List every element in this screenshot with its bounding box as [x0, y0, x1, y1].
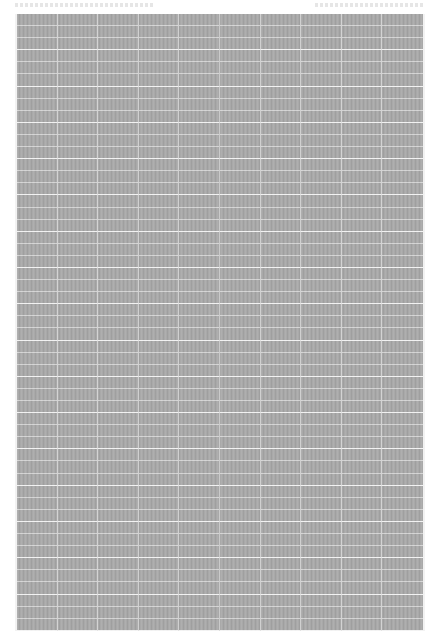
- table-cell: [58, 389, 99, 401]
- table-cell: [301, 425, 342, 437]
- table-cell: [98, 135, 139, 147]
- table-cell: [179, 607, 220, 619]
- table-cell: [58, 365, 99, 377]
- table-cell: [17, 268, 58, 280]
- table-cell: [261, 582, 302, 594]
- table-cell: [382, 449, 423, 461]
- table-cell: [261, 522, 302, 534]
- table-cell: [382, 498, 423, 510]
- table-cell: [261, 570, 302, 582]
- table-cell: [98, 486, 139, 498]
- table-cell: [342, 268, 383, 280]
- table-cell: [220, 280, 261, 292]
- table-cell: [342, 510, 383, 522]
- table-cell: [17, 232, 58, 244]
- table-cell: [17, 607, 58, 619]
- table-cell: [382, 147, 423, 159]
- table-cell: [261, 316, 302, 328]
- table-cell: [17, 449, 58, 461]
- table-cell: [342, 292, 383, 304]
- table-cell: [342, 62, 383, 74]
- table-cell: [342, 558, 383, 570]
- table-cell: [58, 208, 99, 220]
- table-cell: [139, 135, 180, 147]
- table-cell: [382, 244, 423, 256]
- table-cell: [179, 14, 220, 26]
- table-cell: [301, 437, 342, 449]
- table-cell: [382, 38, 423, 50]
- table-cell: [301, 14, 342, 26]
- table-cell: [261, 244, 302, 256]
- table-cell: [261, 268, 302, 280]
- table-cell: [220, 365, 261, 377]
- table-cell: [301, 353, 342, 365]
- table-cell: [382, 111, 423, 123]
- table-cell: [17, 171, 58, 183]
- table-cell: [179, 595, 220, 607]
- table-cell: [220, 353, 261, 365]
- table-cell: [17, 147, 58, 159]
- table-cell: [301, 449, 342, 461]
- table-cell: [382, 183, 423, 195]
- table-cell: [220, 546, 261, 558]
- table-cell: [58, 62, 99, 74]
- table-cell: [139, 582, 180, 594]
- table-cell: [98, 341, 139, 353]
- table-cell: [220, 147, 261, 159]
- table-cell: [220, 74, 261, 86]
- table-cell: [261, 474, 302, 486]
- table-cell: [301, 486, 342, 498]
- table-cell: [261, 558, 302, 570]
- table-cell: [58, 183, 99, 195]
- table-cell: [58, 316, 99, 328]
- table-cell: [301, 99, 342, 111]
- table-cell: [58, 437, 99, 449]
- table-cell: [301, 522, 342, 534]
- table-cell: [58, 558, 99, 570]
- table-cell: [220, 26, 261, 38]
- table-cell: [261, 256, 302, 268]
- table-cell: [139, 220, 180, 232]
- table-cell: [139, 62, 180, 74]
- table-cell: [98, 147, 139, 159]
- table-cell: [301, 316, 342, 328]
- table-cell: [220, 328, 261, 340]
- table-cell: [17, 87, 58, 99]
- table-cell: [179, 183, 220, 195]
- table-cell: [139, 87, 180, 99]
- table-cell: [139, 328, 180, 340]
- table-cell: [17, 14, 58, 26]
- table-cell: [179, 461, 220, 473]
- table-cell: [17, 341, 58, 353]
- table-cell: [220, 159, 261, 171]
- table-cell: [382, 50, 423, 62]
- table-cell: [382, 99, 423, 111]
- table-cell: [139, 14, 180, 26]
- table-cell: [98, 619, 139, 631]
- table-cell: [17, 582, 58, 594]
- table-cell: [342, 195, 383, 207]
- table-cell: [382, 595, 423, 607]
- table-grid: [17, 14, 423, 631]
- table-cell: [342, 341, 383, 353]
- table-cell: [382, 232, 423, 244]
- table-cell: [220, 183, 261, 195]
- table-cell: [220, 607, 261, 619]
- table-cell: [98, 304, 139, 316]
- table-cell: [382, 461, 423, 473]
- table-cell: [342, 353, 383, 365]
- table-cell: [342, 486, 383, 498]
- table-cell: [139, 619, 180, 631]
- table-cell: [261, 413, 302, 425]
- table-cell: [382, 558, 423, 570]
- table-cell: [382, 195, 423, 207]
- table-cell: [261, 26, 302, 38]
- table-cell: [301, 377, 342, 389]
- table-cell: [382, 159, 423, 171]
- table-cell: [382, 619, 423, 631]
- table-cell: [220, 14, 261, 26]
- table-cell: [261, 341, 302, 353]
- table-cell: [220, 304, 261, 316]
- table-cell: [301, 111, 342, 123]
- table-cell: [17, 389, 58, 401]
